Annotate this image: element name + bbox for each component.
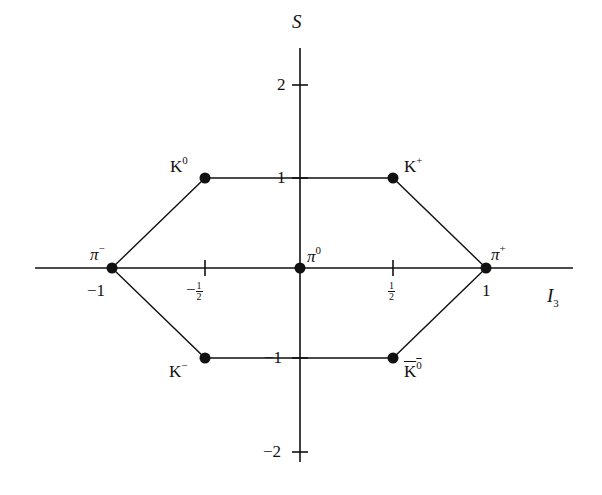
- label-K0bar: K0: [404, 361, 422, 380]
- label-piplus: π+: [491, 244, 506, 263]
- label-pi0: π0: [307, 246, 321, 265]
- y-tick-label-minus2: −2: [263, 443, 281, 460]
- point-Kplus: [388, 173, 399, 184]
- point-piplus: [481, 263, 492, 274]
- y-axis-label: S: [292, 12, 302, 31]
- y-tick-label-2: 2: [277, 76, 286, 93]
- x-tick-label-1: 1: [482, 282, 491, 299]
- x-tick-minus-sign: −: [186, 280, 196, 299]
- label-Kplus: K+: [404, 156, 423, 175]
- point-K0bar: [388, 353, 399, 364]
- x-tick-label-minus-half: −12: [186, 281, 203, 302]
- point-K0: [200, 173, 211, 184]
- point-Kminus: [200, 353, 211, 364]
- y-tick-label-1: 1: [277, 169, 286, 186]
- point-pi0: [295, 263, 306, 274]
- x-tick-label-half: 12: [388, 281, 395, 302]
- x-tick-label-minus1: −1: [87, 282, 105, 299]
- y-tick-label-minus1: −1: [264, 349, 282, 366]
- fraction-half: 12: [388, 281, 395, 302]
- point-piminus: [107, 263, 118, 274]
- x-axis-label: I3: [547, 286, 559, 309]
- label-piminus: π−: [90, 244, 105, 263]
- x-axis-label-sub: 3: [553, 297, 559, 309]
- fraction-minus-half: 12: [196, 281, 203, 302]
- label-Kminus: K−: [169, 361, 188, 380]
- label-K0: K0: [170, 156, 188, 175]
